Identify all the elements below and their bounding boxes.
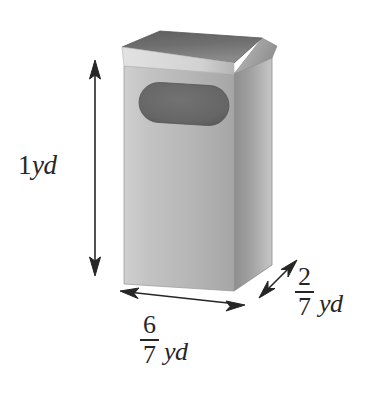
- depth-fraction: 2 7: [295, 264, 314, 320]
- depth-unit: yd: [319, 291, 343, 320]
- figure-container: 1yd 6 7 yd 2 7 yd: [0, 0, 381, 394]
- width-denominator: 7: [141, 342, 158, 368]
- height-dimension-label: 1yd: [18, 152, 56, 179]
- width-dimension-arrow: [120, 288, 245, 311]
- width-dimension-label: 6 7 yd: [140, 312, 188, 368]
- depth-denominator: 7: [296, 294, 313, 320]
- right-side-face: [234, 56, 272, 291]
- width-numerator: 6: [141, 312, 158, 338]
- height-unit: yd: [32, 150, 56, 180]
- oval-slot-opening: [138, 81, 230, 126]
- depth-dimension-label: 2 7 yd: [295, 264, 343, 320]
- receptacle-illustration: [0, 0, 381, 394]
- width-fraction: 6 7: [140, 312, 159, 368]
- width-unit: yd: [164, 339, 188, 368]
- depth-numerator: 2: [296, 264, 313, 290]
- height-value: 1: [18, 150, 32, 180]
- height-dimension-arrow: [90, 60, 101, 276]
- receptacle-body: [122, 31, 277, 291]
